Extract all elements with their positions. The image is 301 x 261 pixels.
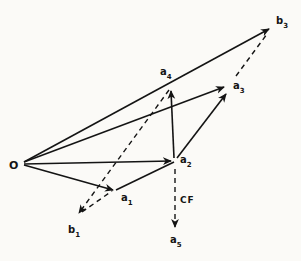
vector-edge-O-b3 [24,29,269,162]
vector-diagram: Oa1a2a3a4a5b1b3CF [0,0,301,261]
vector-edge-a1-a2 [116,162,174,190]
vector-edge-O-a2 [24,161,171,164]
node-label-a3: a3 [233,80,245,95]
node-label-b3: b3 [276,15,288,30]
node-label-subscript-a3: 3 [240,87,245,95]
node-label-subscript-a1: 1 [128,199,133,207]
node-label-subscript-a5: 5 [177,241,182,249]
node-label-a1: a1 [121,192,133,207]
node-label-subscript-a4: 4 [167,73,172,81]
node-label-a5: a5 [170,234,182,249]
cf-label: CF [180,195,195,205]
node-label-subscript-b1: 1 [75,231,80,239]
figure-canvas: Oa1a2a3a4a5b1b3CF [0,0,301,261]
node-label-a4: a4 [160,66,172,81]
node-label-O: O [9,159,18,172]
node-label-a2: a2 [180,154,192,169]
vector-edge-a2-a3 [177,94,226,158]
edges-layer [24,29,269,227]
vector-edge-b1-a1 [82,191,112,212]
node-label-subscript-a2: 2 [187,161,192,169]
vector-edge-O-a1 [24,165,113,190]
node-label-subscript-b3: 3 [283,22,288,30]
labels-layer: Oa1a2a3a4a5b1b3CF [9,15,288,249]
node-label-b1: b1 [68,224,80,239]
vector-edge-a3-b3 [236,34,267,76]
vector-edge-a2-a4 [171,91,174,158]
